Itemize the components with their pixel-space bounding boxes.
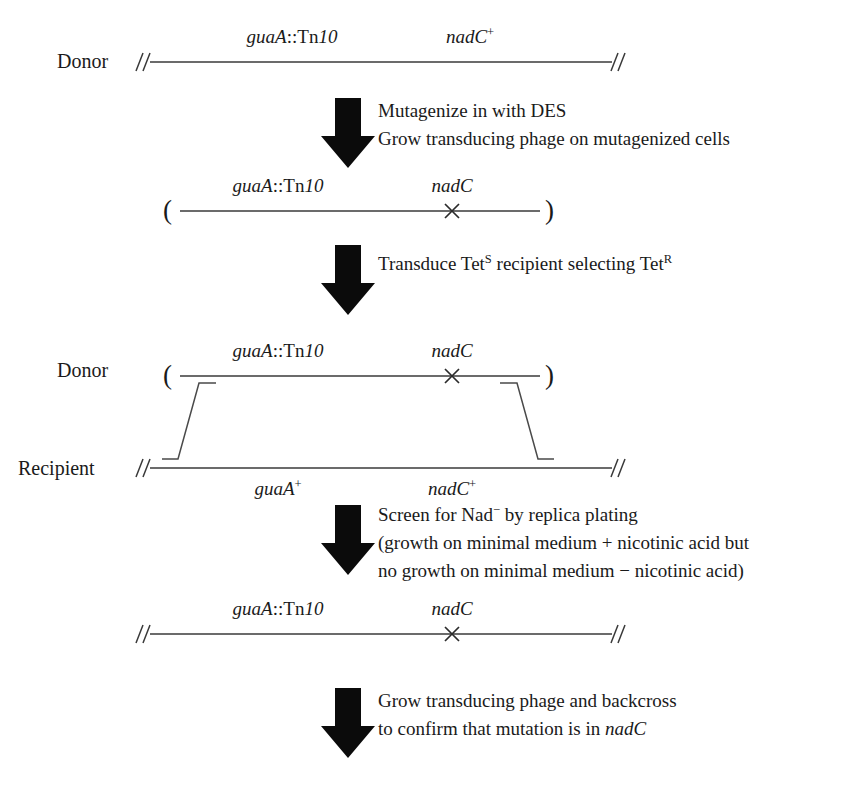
- chromosome-break-left: [136, 625, 150, 643]
- step-line: to confirm that mutation is in nadC: [378, 718, 646, 739]
- flow-diagram: Donor guaA::Tn10 nadC+ Mutagenize in wit…: [0, 0, 841, 788]
- chromosome-break-right: [611, 625, 625, 643]
- gene-label-nadC: nadC: [431, 175, 473, 196]
- crossover-line-right: [500, 383, 554, 459]
- down-arrow-icon: [321, 98, 375, 168]
- step-line: (growth on minimal medium + nicotinic ac…: [378, 532, 750, 554]
- gene-label-guaA-plus: guaA+: [254, 477, 301, 499]
- gene-label-guaA-tn10: guaA::Tn10: [247, 26, 338, 47]
- chromosome-break-right: [611, 459, 625, 477]
- row-role-label: Recipient: [18, 457, 95, 480]
- row-final-recombinant: guaA::Tn10 nadC: [136, 598, 625, 643]
- row-donor-crossover: Donor ( ) guaA::Tn10 nadC: [57, 340, 554, 390]
- row-recipient-crossover: Recipient guaA+ nadC+: [18, 457, 625, 499]
- gene-label-nadC: nadC: [431, 340, 473, 361]
- paren-open: (: [163, 360, 172, 390]
- step-line: Mutagenize in with DES: [378, 100, 566, 121]
- gene-label-guaA-tn10: guaA::Tn10: [233, 175, 324, 196]
- gene-label-guaA-tn10: guaA::Tn10: [233, 340, 324, 361]
- step-line: no growth on minimal medium − nicotinic …: [378, 560, 744, 582]
- gene-label-nadC: nadC: [431, 598, 473, 619]
- step-line: Grow transducing phage on mutagenized ce…: [378, 128, 730, 149]
- row-role-label: Donor: [57, 50, 108, 72]
- row-role-label: Donor: [57, 359, 108, 381]
- crossover-brackets: [162, 383, 554, 459]
- step-line: Grow transducing phage and backcross: [378, 690, 677, 711]
- paren-open: (: [163, 195, 172, 225]
- row-mutagenized-phage: ( ) guaA::Tn10 nadC: [163, 175, 554, 225]
- row-donor-initial: Donor guaA::Tn10 nadC+: [57, 25, 625, 72]
- chromosome-break-right: [611, 53, 625, 71]
- gene-label-nadC-plus: nadC+: [446, 25, 494, 47]
- diagram-canvas: Donor guaA::Tn10 nadC+ Mutagenize in wit…: [0, 0, 841, 788]
- chromosome-break-left: [136, 53, 150, 71]
- gene-label-guaA-tn10: guaA::Tn10: [233, 598, 324, 619]
- down-arrow-icon: [321, 245, 375, 315]
- paren-close: ): [545, 195, 554, 225]
- gene-label-nadC-plus: nadC+: [428, 477, 476, 499]
- step-line: Screen for Nad− by replica plating: [378, 503, 638, 525]
- paren-close: ): [545, 360, 554, 390]
- step-transduce: Transduce TetS recipient selecting TetR: [321, 245, 673, 315]
- chromosome-break-left: [136, 459, 150, 477]
- step-backcross: Grow transducing phage and backcross to …: [321, 688, 677, 758]
- down-arrow-icon: [321, 688, 375, 758]
- step-line: Transduce TetS recipient selecting TetR: [378, 252, 673, 274]
- crossover-line-left: [162, 383, 216, 459]
- step-mutagenize: Mutagenize in with DES Grow transducing …: [321, 98, 730, 168]
- step-screen: Screen for Nad− by replica plating (grow…: [321, 503, 750, 582]
- down-arrow-icon: [321, 505, 375, 575]
